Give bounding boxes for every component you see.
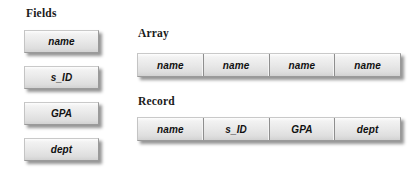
field-box-name: name [24,30,99,53]
field-box-s-id: s_ID [24,66,99,89]
field-label: name [48,36,75,47]
field-box-dept: dept [24,138,99,161]
field-box-gpa: GPA [24,102,99,125]
array-cell-label: name [354,60,381,71]
array-cell: name [335,54,400,76]
field-label: s_ID [51,72,73,83]
record-cell-label: GPA [291,124,312,135]
array-cell-label: name [223,60,250,71]
field-label: dept [51,144,73,155]
record-heading: Record [138,95,175,107]
record-cell-label: s_ID [225,124,247,135]
record-cell-label: dept [357,124,379,135]
fields-heading: Fields [26,7,57,19]
array-structure: name name name name [137,53,401,77]
record-cell: dept [335,118,400,140]
array-cell-label: name [157,60,184,71]
array-cell: name [204,54,270,76]
field-label: GPA [51,108,72,119]
record-cell: GPA [270,118,336,140]
record-cell-label: name [157,124,184,135]
array-cell-label: name [289,60,316,71]
array-cell: name [270,54,336,76]
array-cell: name [138,54,204,76]
record-cell: name [138,118,204,140]
record-structure: name s_ID GPA dept [137,117,401,141]
record-cell: s_ID [204,118,270,140]
array-heading: Array [138,27,169,39]
